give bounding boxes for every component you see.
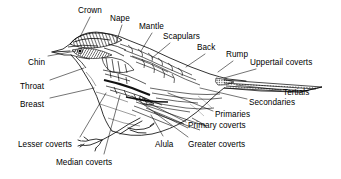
- label-median-coverts: Median coverts: [56, 158, 112, 167]
- bird-mantle-and-back: [120, 44, 196, 80]
- leader-rump: [218, 61, 233, 72]
- leader-median-coverts: [104, 95, 120, 154]
- label-greater-coverts: Greater coverts: [188, 140, 245, 149]
- bird-head-detail: [68, 32, 126, 68]
- label-back: Back: [197, 43, 215, 52]
- label-crown: Crown: [78, 6, 102, 15]
- leader-throat: [50, 68, 84, 80]
- label-scapulars: Scapulars: [163, 32, 200, 41]
- leader-breast: [50, 88, 94, 98]
- label-primary-coverts: Primary coverts: [188, 121, 246, 130]
- bird-wing-coverts: [102, 57, 168, 105]
- label-rump: Rump: [226, 50, 248, 59]
- label-alula: Alula: [155, 140, 173, 149]
- label-tertials: Tertials: [283, 88, 309, 97]
- leader-uppertail-coverts: [224, 69, 256, 78]
- leader-lesser-coverts: [80, 93, 106, 137]
- label-lesser-coverts: Lesser coverts: [18, 140, 72, 149]
- leader-back: [186, 54, 205, 67]
- label-secondaries: Secondaries: [249, 98, 295, 107]
- label-breast: Breast: [20, 100, 44, 109]
- label-nape: Nape: [110, 14, 130, 23]
- label-mantle: Mantle: [139, 22, 164, 31]
- leader-mantle: [141, 33, 152, 51]
- label-primaries: Primaries: [215, 110, 250, 119]
- bird-topography-diagram: Crown Nape Mantle Scapulars Back Rump Up…: [0, 0, 341, 179]
- label-chin: Chin: [28, 58, 45, 67]
- label-throat: Throat: [20, 82, 44, 91]
- label-uppertail-coverts: Uppertail coverts: [250, 58, 312, 67]
- bird-legs-and-feet: [78, 118, 154, 151]
